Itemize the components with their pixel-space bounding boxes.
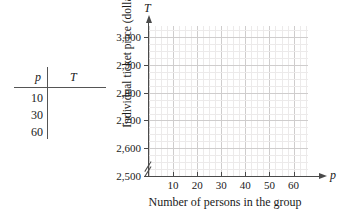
gridline-minor-vertical	[227, 26, 228, 176]
table-header-t: T	[70, 71, 77, 83]
gridline-minor-horizontal	[149, 100, 308, 101]
y-axis-tick-label: 2,800	[103, 88, 141, 99]
y-axis-tick	[144, 176, 149, 177]
x-axis-tick-label: 40	[233, 180, 257, 191]
gridline-major-vertical	[173, 26, 174, 176]
table-row: 30	[19, 109, 43, 121]
x-axis-title: Number of persons in the group	[110, 196, 340, 209]
value-table: p T 10 30 60	[14, 64, 106, 144]
gridline-major-vertical	[245, 26, 246, 176]
gridline-major-vertical	[269, 26, 270, 176]
y-axis-arrow-icon	[146, 15, 152, 23]
gridline-major-horizontal	[149, 65, 308, 66]
gridline-minor-vertical	[191, 26, 192, 176]
gridline-minor-horizontal	[149, 79, 308, 80]
gridline-minor-horizontal	[149, 30, 308, 31]
gridline-minor-vertical	[275, 26, 276, 176]
gridline-minor-vertical	[209, 26, 210, 176]
gridline-major-horizontal	[149, 120, 308, 121]
gridline-minor-horizontal	[149, 162, 308, 163]
y-axis-tick-label: 2,700	[103, 115, 141, 126]
gridline-minor-vertical	[161, 26, 162, 176]
x-axis-tick-label: 20	[185, 180, 209, 191]
table-column-divider	[47, 67, 48, 139]
y-axis-tick	[144, 37, 149, 38]
x-axis-tick-label: 30	[209, 180, 233, 191]
plot-area	[149, 26, 308, 176]
table-row: 10	[19, 92, 43, 104]
gridline-minor-vertical	[179, 26, 180, 176]
gridline-minor-horizontal	[149, 58, 308, 59]
y-axis-line	[148, 22, 149, 176]
gridline-major-vertical	[294, 26, 295, 176]
gridline-minor-horizontal	[149, 155, 308, 156]
gridline-minor-vertical	[239, 26, 240, 176]
table-header-rule	[14, 87, 106, 88]
gridline-major-vertical	[221, 26, 222, 176]
gridline-minor-vertical	[251, 26, 252, 176]
gridline-minor-vertical	[306, 26, 307, 176]
gridline-major-vertical	[197, 26, 198, 176]
x-axis-tick-label: 60	[282, 180, 306, 191]
gridline-minor-horizontal	[149, 169, 308, 170]
gridline-minor-vertical	[203, 26, 204, 176]
gridline-major-horizontal	[149, 148, 308, 149]
x-axis-tick-label: 10	[161, 180, 185, 191]
gridline-minor-horizontal	[149, 134, 308, 135]
x-axis-variable-label: p	[330, 169, 336, 181]
x-axis-tick	[269, 172, 270, 177]
y-axis-variable-label: T	[144, 2, 151, 14]
gridline-minor-vertical	[167, 26, 168, 176]
gridline-minor-horizontal	[149, 72, 308, 73]
y-axis-tick-label: 2,500	[103, 171, 141, 182]
gridline-major-horizontal	[149, 37, 308, 38]
x-axis-tick	[173, 172, 174, 177]
gridline-minor-horizontal	[149, 51, 308, 52]
gridline-minor-horizontal	[149, 107, 308, 108]
gridline-minor-vertical	[288, 26, 289, 176]
x-axis-tick	[197, 172, 198, 177]
y-axis-tick-label: 2,900	[103, 60, 141, 71]
y-axis-tick	[144, 120, 149, 121]
x-axis-tick	[294, 172, 295, 177]
x-axis-tick	[221, 172, 222, 177]
gridline-minor-horizontal	[149, 44, 308, 45]
gridline-minor-vertical	[233, 26, 234, 176]
y-axis-tick	[144, 65, 149, 66]
gridline-minor-vertical	[215, 26, 216, 176]
table-row: 60	[19, 126, 43, 138]
x-axis-tick-label: 50	[257, 180, 281, 191]
gridline-major-horizontal	[149, 93, 308, 94]
y-axis-tick-label: 2,600	[103, 143, 141, 154]
gridline-minor-vertical	[282, 26, 283, 176]
gridline-minor-horizontal	[149, 114, 308, 115]
gridline-minor-vertical	[257, 26, 258, 176]
gridline-minor-horizontal	[149, 127, 308, 128]
y-axis-tick	[144, 93, 149, 94]
gridline-minor-vertical	[263, 26, 264, 176]
y-axis-tick-label: 3,000	[103, 32, 141, 43]
x-axis-tick	[245, 172, 246, 177]
coordinate-grid-chart: T p Number of persons in the group Indiv…	[100, 0, 349, 217]
x-axis-arrow-icon	[319, 173, 327, 179]
gridline-minor-vertical	[155, 26, 156, 176]
gridline-minor-vertical	[185, 26, 186, 176]
y-axis-tick	[144, 148, 149, 149]
gridline-minor-vertical	[300, 26, 301, 176]
table-header-p: p	[35, 71, 41, 83]
gridline-minor-horizontal	[149, 86, 308, 87]
gridline-minor-horizontal	[149, 141, 308, 142]
